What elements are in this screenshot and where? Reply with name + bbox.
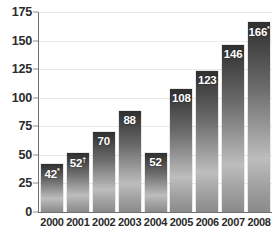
y-tick-label: 50 xyxy=(0,148,32,162)
bar: 108 xyxy=(170,89,192,212)
bar: 70 xyxy=(93,132,115,212)
y-tick-label: 0 xyxy=(0,205,32,219)
y-tick-label: 75 xyxy=(0,119,32,133)
bar-value-label: 123 xyxy=(196,74,218,86)
bar-value-number: 108 xyxy=(172,92,191,104)
y-tick-label: 175 xyxy=(0,5,32,19)
bar: 146 xyxy=(222,45,244,212)
x-axis-line xyxy=(38,212,272,213)
bar-value-number: 123 xyxy=(198,74,217,86)
y-axis: 0255075100125150175 xyxy=(0,0,32,238)
bar: 42* xyxy=(41,164,63,212)
bar-value-label: 166* xyxy=(248,25,270,38)
bar-value-footnote-marker: † xyxy=(82,156,86,163)
bar: 88 xyxy=(119,111,141,212)
y-tick-label: 150 xyxy=(0,34,32,48)
bar-value-label: 42* xyxy=(41,167,63,180)
plot-area: 42*52†708852108123146166* xyxy=(39,12,272,212)
bar-value-label: 146 xyxy=(222,48,244,60)
bar-value-number: 70 xyxy=(98,135,110,147)
y-tick-label: 100 xyxy=(0,91,32,105)
bar-value-footnote-marker: * xyxy=(267,25,270,32)
x-tick-label: 2008 xyxy=(244,216,274,228)
bar-value-number: 52 xyxy=(149,156,161,168)
bar-value-number: 52 xyxy=(70,156,82,168)
bar: 123 xyxy=(196,71,218,212)
bar-value-number: 88 xyxy=(123,114,135,126)
bar-value-label: 52 xyxy=(145,156,167,168)
y-tick-label: 125 xyxy=(0,62,32,76)
bar-value-number: 166 xyxy=(248,26,267,38)
bars: 42*52†708852108123146166* xyxy=(39,12,272,212)
bar-value-footnote-marker: * xyxy=(57,167,60,174)
x-axis: 200020012002200320042005200620072008 xyxy=(39,216,272,236)
bar-value-label: 88 xyxy=(119,114,141,126)
bar-value-label: 108 xyxy=(170,92,192,104)
bar-value-number: 146 xyxy=(224,48,243,60)
y-tick-label: 25 xyxy=(0,176,32,190)
bar: 52† xyxy=(67,153,89,212)
bar-value-label: 52† xyxy=(67,156,89,169)
bar-chart: 0255075100125150175 42*52†70885210812314… xyxy=(0,0,278,238)
bar-value-label: 70 xyxy=(93,135,115,147)
bar-value-number: 42 xyxy=(44,168,56,180)
bar: 166* xyxy=(248,22,270,212)
bar: 52 xyxy=(145,153,167,212)
